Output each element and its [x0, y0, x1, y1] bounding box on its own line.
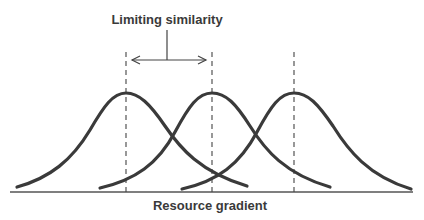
niche-overlap-diagram: Limiting similarity Resource gradient — [0, 0, 424, 220]
limiting-similarity-label: Limiting similarity — [111, 12, 223, 27]
resource-gradient-label: Resource gradient — [153, 198, 268, 213]
